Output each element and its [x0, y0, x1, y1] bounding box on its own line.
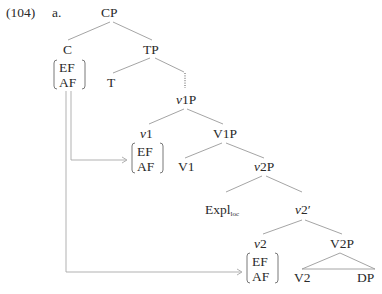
branch-v2bar-v2 — [263, 220, 302, 234]
feature-EF: EF — [252, 254, 268, 269]
arrow-C-to-v2 — [66, 91, 242, 275]
right-bracket — [275, 253, 278, 283]
left-bracket — [132, 143, 135, 173]
syntax-tree-diagram: (104) a. CP C EF AF TP T v1P v1 EF AF V1… — [0, 0, 382, 294]
node-CP: CP — [101, 5, 118, 20]
left-bracket — [247, 253, 250, 283]
arrow-C-to-v1 — [71, 91, 127, 163]
feature-matrix-C: EF AF — [54, 60, 85, 90]
feature-matrix-v2: EF AF — [247, 253, 278, 284]
branch-v2P-v2bar — [266, 176, 302, 192]
example-letter: a. — [52, 5, 61, 20]
node-C: C — [63, 42, 72, 57]
triangle-V2P — [302, 253, 375, 269]
node-V2: V2 — [294, 270, 311, 285]
feature-AF: AF — [137, 159, 155, 174]
left-bracket — [54, 60, 57, 89]
feature-EF: EF — [59, 60, 75, 75]
feature-AF: AF — [59, 75, 77, 90]
node-v1P: v1P — [176, 92, 196, 107]
node-v2-bar: v2′ — [295, 202, 311, 217]
branch-v1P-v1 — [149, 109, 184, 124]
branch-v1P-V1P — [187, 109, 223, 124]
node-v2P: v2P — [254, 159, 274, 174]
branch-V1P-V1 — [185, 143, 222, 158]
node-V1: V1 — [178, 159, 195, 174]
branch-CP-TP — [113, 22, 152, 40]
node-DP: DP — [357, 270, 374, 285]
node-v2: v2 — [254, 236, 267, 251]
branch-V1P-v2P — [226, 143, 264, 158]
node-V2P: V2P — [330, 236, 354, 251]
feature-AF: AF — [252, 269, 270, 284]
branch-v2P-Expl — [226, 176, 262, 192]
right-bracket — [82, 60, 85, 89]
branch-CP-C — [68, 22, 110, 40]
node-V1P: V1P — [213, 126, 237, 141]
node-T: T — [107, 75, 116, 90]
example-number: (104) — [6, 5, 35, 20]
node-v1: v1 — [140, 126, 153, 141]
node-Expl-loc: Explloc — [205, 202, 239, 218]
feature-EF: EF — [137, 144, 153, 159]
node-TP: TP — [143, 42, 159, 57]
branch-TP-ellipsis — [155, 58, 184, 72]
branch-TP-T — [113, 58, 150, 73]
right-bracket — [160, 143, 163, 173]
feature-matrix-v1: EF AF — [132, 143, 163, 174]
branch-v2bar-V2P — [305, 220, 342, 234]
